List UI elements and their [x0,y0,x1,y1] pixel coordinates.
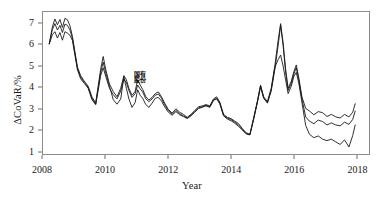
y-tick-label: 4 [29,82,34,92]
x-axis-title: Year [0,180,384,191]
y-tick-label: 6 [29,39,34,49]
x-tick-label: 2014 [221,165,241,175]
series-group [43,12,369,154]
series-line [49,24,355,147]
x-tick-label: 2012 [158,165,178,175]
x-tick-label: 2010 [95,165,115,175]
y-tick-label: 7 [29,18,34,28]
plot-area: 国有 股份 [42,11,370,155]
x-tick-mark [42,155,43,159]
series-line [49,18,355,134]
x-tick-mark [294,155,295,159]
x-tick-label: 2018 [347,165,367,175]
x-tick-mark [105,155,106,159]
x-tick-label: 2016 [284,165,304,175]
y-tick-label: 2 [29,125,34,135]
series-annotation-label: 国有 股份 [134,71,146,84]
series-line [49,25,355,135]
chart-figure: ΔCoVaR/% 1234567 国有 股份 Year 200820102012… [0,0,384,199]
y-tick-label: 3 [29,104,34,114]
x-axis: Year 200820102012201420162018 [0,155,384,199]
x-tick-mark [231,155,232,159]
y-tick-label: 5 [29,61,34,71]
x-tick-mark [168,155,169,159]
x-tick-mark [357,155,358,159]
y-axis-title: ΔCoVaR/% [12,50,23,150]
x-tick-label: 2008 [32,165,52,175]
